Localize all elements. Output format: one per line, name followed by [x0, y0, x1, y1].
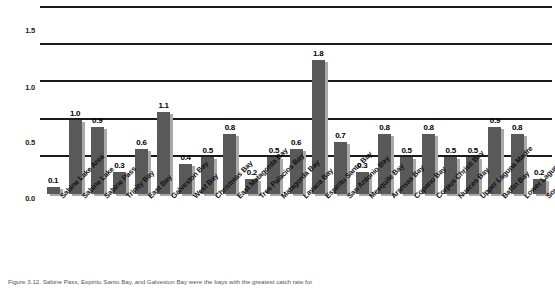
bar-slot: 0.8 — [219, 8, 241, 194]
category-label: Mesquite Bay — [367, 194, 373, 200]
category-label: South Bay — [544, 194, 550, 200]
category-label: Tres Palacios Bay — [257, 194, 263, 200]
bar-value-label: 0.9 — [490, 116, 500, 125]
y-axis-tick-label: 2.5 — [25, 0, 35, 101]
bar-value-label: 0.5 — [203, 146, 213, 155]
bar-value-label: 0.9 — [92, 116, 102, 125]
category-label: Sabine Lake Area — [58, 194, 64, 200]
bar-value-label: 0.8 — [424, 123, 434, 132]
category-label: Upper Laguna Madre — [478, 194, 484, 200]
category-label: Espiritu Santo Bay — [323, 194, 329, 200]
category-label: Sabine Pass — [102, 194, 108, 200]
bar-slot: 0.7 — [329, 8, 351, 194]
bar-slot: 0.1 — [42, 8, 64, 194]
bar-value-label: 1.8 — [313, 49, 323, 58]
bar-value-label: 0.6 — [136, 138, 146, 147]
bar-value-label: 1.1 — [158, 101, 168, 110]
category-label: Aransas Bay — [389, 194, 395, 200]
category-label: Baffin Bay — [500, 194, 506, 200]
category-axis-labels: Sabine Lake AreaSabine LakeSabine PassTr… — [40, 194, 552, 268]
category-label: East Bay — [146, 194, 152, 200]
bar-value-label: 0.8 — [225, 123, 235, 132]
bar-slot: 1.1 — [152, 8, 174, 194]
category-label: San Antonio Bay — [345, 194, 351, 200]
category-label: Sabine Lake — [80, 194, 86, 200]
category-label: East Matagorda Bay — [235, 194, 241, 200]
bar-value-label: 0.6 — [291, 138, 301, 147]
category-label: Nueces Bay — [456, 194, 462, 200]
bar-value-label: 0.1 — [48, 176, 58, 185]
category-label: Lavaca Bay — [301, 194, 307, 200]
category-label: Galveston Bay — [169, 194, 175, 200]
bar-value-label: 1.0 — [70, 109, 80, 118]
category-label: Trinity Bay — [124, 194, 130, 200]
bar-value-label: 0.5 — [401, 146, 411, 155]
bar-value-label: 0.5 — [446, 146, 456, 155]
figure-container: 0.00.51.01.52.02.5 0.11.00.90.30.61.10.4… — [0, 0, 555, 291]
category-label: Corpus Christi Bay — [434, 194, 440, 200]
bar-value-label: 0.7 — [335, 131, 345, 140]
figure-caption: Figure 3.12. Sabine Pass, Espiritu Santo… — [8, 278, 548, 286]
bar-value-label: 0.8 — [379, 123, 389, 132]
category-label: Christmas Bay — [213, 194, 219, 200]
bar-slot: 0.4 — [175, 8, 197, 194]
bar-slot: 0.2 — [528, 8, 550, 194]
bar-value-label: 0.3 — [114, 161, 124, 170]
category-label: Lower Laguna Madre — [522, 194, 528, 200]
bar-value-label: 0.4 — [180, 153, 190, 162]
category-label: Copano Bay — [412, 194, 418, 200]
bar-slot: 0.9 — [484, 8, 506, 194]
bar-slot: 0.3 — [108, 8, 130, 194]
category-label: West Bay — [191, 194, 197, 200]
bar-slot: 1.0 — [64, 8, 86, 194]
bar-value-label: 0.8 — [512, 123, 522, 132]
category-label: Matagorda Bay — [279, 194, 285, 200]
